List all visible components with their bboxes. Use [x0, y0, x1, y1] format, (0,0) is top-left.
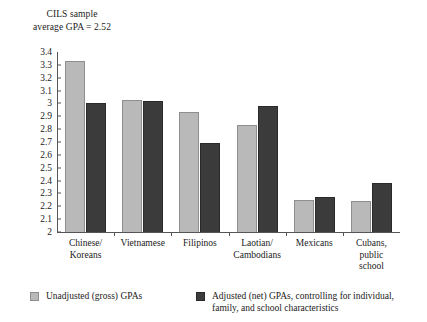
y-axis-tick-label: 2.2 — [6, 201, 57, 211]
bar — [65, 61, 85, 232]
bar — [372, 183, 392, 232]
legend-label-adjusted: Adjusted (net) GPAs, controlling for ind… — [212, 290, 394, 314]
x-axis-tick-mark — [343, 232, 344, 236]
legend-swatch-unadjusted-icon — [30, 292, 39, 301]
legend-label-adjusted-line-2: family, and school characteristics — [212, 302, 394, 314]
y-axis-tick-label: 2.8 — [6, 124, 57, 134]
y-axis-tick-label: 2.6 — [6, 150, 57, 160]
y-axis-tick-mark — [58, 180, 61, 181]
y-axis-tick-label: 3.1 — [6, 86, 57, 96]
legend-label-adjusted-line-1: Adjusted (net) GPAs, controlling for ind… — [212, 290, 394, 302]
x-axis-label-line: school — [343, 261, 400, 273]
x-axis-label-line: Cambodians — [229, 250, 286, 262]
x-axis-label-line: Vietnamese — [114, 238, 171, 250]
x-axis-tick-mark — [114, 232, 115, 236]
y-axis-tick-mark — [58, 90, 61, 91]
x-axis-label-line: Koreans — [57, 250, 114, 262]
x-axis-label-line: Mexicans — [286, 238, 343, 250]
y-axis-tick-mark — [58, 77, 61, 78]
bar-group — [179, 52, 220, 232]
chart-title-line-2: average GPA = 2.52 — [6, 21, 138, 34]
legend-entry-adjusted: Adjusted (net) GPAs, controlling for ind… — [196, 290, 394, 314]
x-axis-label-line: Chinese/ — [57, 238, 114, 250]
chart-legend: Unadjusted (gross) GPAs Adjusted (net) G… — [0, 286, 427, 322]
bar-group — [122, 52, 163, 232]
x-axis-label: Filipinos — [171, 238, 228, 250]
legend-swatch-adjusted-icon — [196, 292, 205, 301]
bar-group — [237, 52, 278, 232]
y-axis-tick-label: 2.5 — [6, 163, 57, 173]
y-axis-tick-label: 3.3 — [6, 60, 57, 70]
y-axis-tick-label: 3.2 — [6, 73, 57, 83]
y-axis-tick-label: 2 — [6, 227, 57, 237]
legend-label-unadjusted: Unadjusted (gross) GPAs — [46, 290, 142, 302]
x-axis-label: Chinese/Koreans — [57, 238, 114, 261]
bar — [86, 103, 106, 232]
bar-group — [294, 52, 335, 232]
bar — [315, 197, 335, 232]
y-axis-tick-mark — [58, 116, 61, 117]
y-axis-tick-label: 3.4 — [6, 47, 57, 57]
x-axis-label-line: Laotian/ — [229, 238, 286, 250]
bar — [200, 143, 220, 232]
bar — [351, 201, 371, 232]
bar — [237, 125, 257, 232]
x-axis-label: Vietnamese — [114, 238, 171, 250]
y-axis-tick-mark — [58, 167, 61, 168]
y-axis-tick-mark — [58, 129, 61, 130]
y-axis-tick-mark — [58, 219, 61, 220]
bar — [122, 100, 142, 232]
y-axis-tick-label: 2.9 — [6, 111, 57, 121]
x-axis-label: Laotian/Cambodians — [229, 238, 286, 261]
y-axis-tick-mark — [58, 142, 61, 143]
y-axis-tick-label: 2.1 — [6, 214, 57, 224]
x-axis-label-line: Filipinos — [171, 238, 228, 250]
x-axis-tick-mark — [286, 232, 287, 236]
y-axis-tick-label: 2.3 — [6, 188, 57, 198]
x-axis-label-line: public — [343, 250, 400, 262]
bar-group — [351, 52, 392, 232]
x-axis-label-line: Cubans, — [343, 238, 400, 250]
y-axis-tick-mark — [58, 64, 61, 65]
y-axis-tick-mark — [58, 154, 61, 155]
x-axis-label: Mexicans — [286, 238, 343, 250]
legend-entry-unadjusted: Unadjusted (gross) GPAs — [30, 290, 142, 302]
bar-group — [65, 52, 106, 232]
chart-title: CILS sample average GPA = 2.52 — [6, 8, 138, 33]
y-axis-tick-label: 2.7 — [6, 137, 57, 147]
x-axis-tick-mark — [171, 232, 172, 236]
chart-title-line-1: CILS sample — [6, 8, 138, 21]
bar — [143, 101, 163, 232]
bar — [294, 200, 314, 232]
y-axis-tick-label: 2.4 — [6, 176, 57, 186]
y-axis-tick-mark — [58, 103, 61, 104]
y-axis-tick-label: 3 — [6, 98, 57, 108]
x-axis-label: Cubans,publicschool — [343, 238, 400, 273]
plot-area: 3.43.33.23.132.92.82.72.62.52.42.32.22.1… — [57, 52, 400, 232]
bar — [258, 106, 278, 232]
bar-chart-figure: CILS sample average GPA = 2.52 3.43.33.2… — [0, 0, 427, 322]
bar — [179, 112, 199, 232]
legend-label-unadjusted-line-1: Unadjusted (gross) GPAs — [46, 290, 142, 302]
y-axis-tick-mark — [58, 206, 61, 207]
y-axis-tick-mark — [58, 232, 61, 233]
y-axis-tick-mark — [58, 193, 61, 194]
x-axis-tick-mark — [229, 232, 230, 236]
